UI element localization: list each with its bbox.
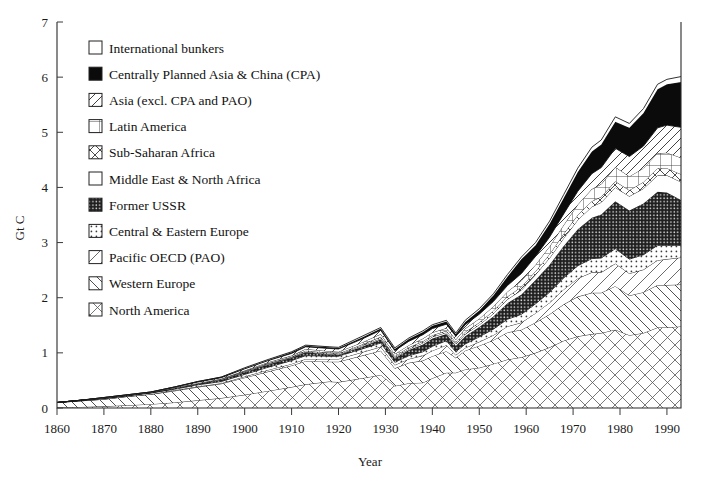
legend-swatch: [89, 251, 102, 264]
y-tick-label: 1: [42, 345, 49, 360]
x-tick-label: 1870: [91, 421, 117, 436]
y-tick-label: 2: [42, 290, 49, 305]
chart-root: 0123456718601870188018901900191019201930…: [0, 0, 703, 487]
legend-swatch: [89, 146, 102, 159]
x-tick-label: 1960: [513, 421, 539, 436]
legend-swatch: [89, 277, 102, 290]
x-tick-label: 1910: [279, 421, 305, 436]
x-tick-label: 1900: [232, 421, 258, 436]
legend-swatch: [89, 224, 102, 237]
y-tick-label: 6: [42, 70, 49, 85]
y-axis-title: Gt C: [12, 216, 27, 241]
y-tick-label: 7: [42, 15, 49, 30]
x-tick-label: 1920: [326, 421, 352, 436]
y-tick-label: 5: [42, 125, 49, 140]
x-tick-label: 1950: [466, 421, 492, 436]
x-tick-label: 1930: [372, 421, 398, 436]
x-tick-label: 1880: [138, 421, 164, 436]
legend-swatch: [89, 303, 102, 316]
legend-swatch: [89, 120, 102, 133]
x-tick-label: 1860: [44, 421, 70, 436]
legend-label: Sub-Saharan Africa: [109, 145, 215, 160]
y-tick-label: 4: [42, 180, 49, 195]
y-tick-label: 0: [42, 401, 49, 416]
x-tick-label: 1980: [607, 421, 633, 436]
legend-label: Centrally Planned Asia & China (CPA): [109, 67, 320, 82]
legend-swatch: [89, 67, 102, 80]
legend-label: North America: [109, 303, 190, 318]
legend-swatch: [89, 93, 102, 106]
x-tick-label: 1970: [560, 421, 586, 436]
legend-swatch: [89, 172, 102, 185]
legend-label: International bunkers: [109, 41, 224, 56]
legend-label: Western Europe: [109, 276, 195, 291]
legend-swatch: [89, 41, 102, 54]
x-axis-title: Year: [358, 454, 383, 469]
x-tick-label: 1940: [419, 421, 445, 436]
legend-label: Asia (excl. CPA and PAO): [109, 93, 252, 108]
legend-label: Latin America: [109, 119, 187, 134]
y-tick-label: 3: [42, 235, 49, 250]
stacked-area-chart: 0123456718601870188018901900191019201930…: [0, 0, 703, 487]
legend-label: Pacific OECD (PAO): [109, 250, 225, 265]
x-tick-label: 1890: [185, 421, 211, 436]
legend-label: Central & Eastern Europe: [109, 224, 249, 239]
legend-label: Middle East & North Africa: [109, 172, 260, 187]
x-tick-label: 1990: [654, 421, 680, 436]
legend-label: Former USSR: [109, 198, 186, 213]
legend-swatch: [89, 198, 102, 211]
